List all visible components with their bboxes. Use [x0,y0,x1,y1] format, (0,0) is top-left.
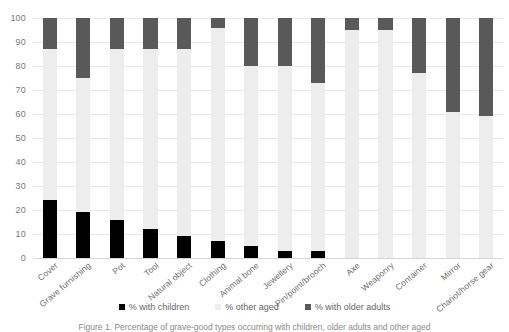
figure-caption: Figure 1. Percentage of grave-good types… [0,322,509,332]
bar-column[interactable] [446,18,460,258]
bar-segment[interactable] [211,28,225,242]
bar-segment[interactable] [177,49,191,236]
bar-column[interactable] [177,18,191,258]
bar-segment[interactable] [211,18,225,28]
bar-segment[interactable] [76,18,90,78]
bar-segment[interactable] [143,49,157,229]
stacked-bar-chart: 1009080706050403020100 CoverGrave furnis… [0,0,509,332]
x-axis-tick-label: Axe [344,261,361,278]
y-axis-tick-label: 100 [10,14,26,23]
bar-segment[interactable] [43,18,57,49]
bar-column[interactable] [345,18,359,258]
bar-column[interactable] [244,18,258,258]
bar-segment[interactable] [43,200,57,258]
bar-segment[interactable] [278,251,292,258]
legend-swatch-icon [215,304,221,310]
bar-segment[interactable] [110,18,124,49]
gridline [33,138,503,139]
x-axis-tick-label: Container [394,261,429,292]
y-axis: 1009080706050403020100 [0,18,30,258]
bar-segment[interactable] [378,18,392,30]
bar-segment[interactable] [278,66,292,251]
bar-segment[interactable] [244,18,258,66]
bar-segment[interactable] [446,112,460,258]
bar-column[interactable] [479,18,493,258]
gridline [33,162,503,163]
bar-segment[interactable] [479,116,493,258]
y-axis-tick-label: 0 [21,254,26,263]
bar-segment[interactable] [278,18,292,66]
y-axis-tick-label: 90 [16,38,26,47]
gridline [33,66,503,67]
legend-label: % with older adults [315,302,391,312]
bar-segment[interactable] [43,49,57,200]
bar-column[interactable] [278,18,292,258]
x-axis-tick-label: Tool [142,261,160,278]
legend-item[interactable]: % with children [119,302,190,312]
chart-legend: % with children% other aged% with older … [0,300,509,314]
y-axis-tick-label: 60 [16,110,26,119]
legend-swatch-icon [305,304,311,310]
gridline [33,210,503,211]
legend-label: % with children [129,302,190,312]
bar-segment[interactable] [177,18,191,49]
bar-column[interactable] [311,18,325,258]
gridline [33,90,503,91]
bar-segment[interactable] [177,236,191,258]
y-axis-tick-label: 80 [16,62,26,71]
bar-segment[interactable] [110,49,124,219]
bar-segment[interactable] [76,212,90,258]
bar-segment[interactable] [479,18,493,116]
bar-segment[interactable] [143,18,157,49]
bar-segment[interactable] [345,30,359,258]
bar-segment[interactable] [412,73,426,258]
legend-item[interactable]: % other aged [215,302,279,312]
bar-segment[interactable] [143,229,157,258]
bar-column[interactable] [211,18,225,258]
x-axis-tick-label: Mirror [439,261,462,283]
bar-column[interactable] [378,18,392,258]
bar-column[interactable] [76,18,90,258]
gridline [33,18,503,19]
y-axis-tick-label: 20 [16,206,26,215]
x-axis: CoverGrave furnishingPotToolNatural obje… [33,258,503,304]
bar-column[interactable] [143,18,157,258]
bar-segment[interactable] [378,30,392,258]
y-axis-tick-label: 10 [16,230,26,239]
y-axis-tick-label: 70 [16,86,26,95]
legend-swatch-icon [119,304,125,310]
bar-segment[interactable] [311,251,325,258]
gridline [33,42,503,43]
x-axis-tick-label: Weaponry [359,261,395,293]
legend-label: % other aged [225,302,279,312]
bar-segment[interactable] [446,18,460,112]
bar-segment[interactable] [345,18,359,30]
bar-column[interactable] [43,18,57,258]
y-axis-tick-label: 30 [16,182,26,191]
y-axis-tick-label: 50 [16,134,26,143]
x-axis-tick-label: Pot [111,261,127,276]
plot-area [33,18,503,258]
bar-segment[interactable] [311,83,325,251]
bar-segment[interactable] [311,18,325,83]
gridline [33,186,503,187]
bar-column[interactable] [412,18,426,258]
bar-segment[interactable] [211,241,225,258]
bar-segment[interactable] [412,18,426,73]
x-axis-tick-label: Cover [36,261,60,283]
bar-segment[interactable] [244,66,258,246]
gridline [33,234,503,235]
y-axis-tick-label: 40 [16,158,26,167]
gridline [33,114,503,115]
bar-column[interactable] [110,18,124,258]
x-axis-tick-label: Clothing [197,261,227,288]
bar-segment[interactable] [110,220,124,258]
bar-segment[interactable] [76,78,90,212]
bar-segment[interactable] [244,246,258,258]
legend-item[interactable]: % with older adults [305,302,391,312]
